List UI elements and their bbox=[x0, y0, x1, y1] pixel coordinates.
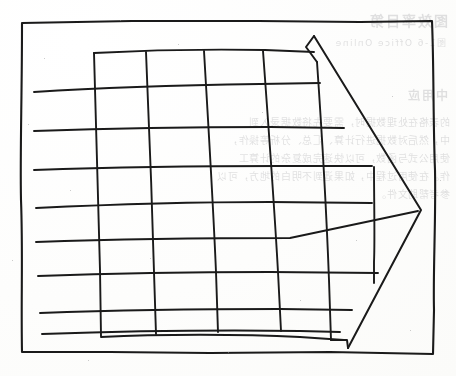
grid-vertical-line bbox=[263, 51, 281, 331]
grid-vertical-line bbox=[204, 51, 218, 332]
grid-horizontal-line bbox=[40, 309, 352, 313]
grid-horizontal-line bbox=[42, 331, 340, 334]
outer-border-frame bbox=[21, 21, 435, 354]
scanned-page: 图效率目第 图1-6 Office Online 中用应 的表格在处理数据时，需… bbox=[0, 0, 456, 376]
grid-horizontal-line bbox=[34, 127, 344, 131]
grid-horizontal-line bbox=[34, 83, 320, 92]
hand-drawn-diagram bbox=[0, 0, 456, 376]
grid-vertical-line bbox=[146, 52, 156, 334]
grid-horizontal-line bbox=[38, 272, 378, 276]
grid-vertical-line bbox=[317, 62, 331, 340]
grid-horizontal-line bbox=[36, 202, 372, 208]
arrow-bottom-notch bbox=[331, 340, 348, 348]
grid-bottom-edge bbox=[101, 335, 344, 340]
diagram-canvas bbox=[0, 0, 456, 376]
grid-vertical-line bbox=[94, 53, 101, 336]
grid-horizontal-line bbox=[34, 166, 372, 170]
grid-horizontal-line bbox=[36, 211, 418, 242]
